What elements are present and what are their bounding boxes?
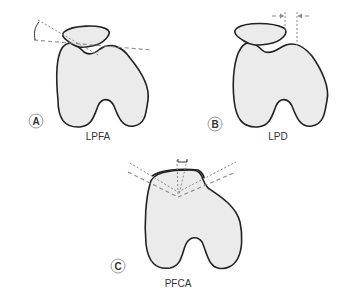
femur-outline-c	[145, 170, 242, 269]
diagram-canvas: A LPFA B LPD C PFCA	[0, 0, 337, 293]
panel-letter-b: B	[211, 119, 218, 130]
panel-letter-c: C	[114, 261, 121, 272]
panel-c: C PFCA	[111, 159, 242, 289]
arrowhead-right-b	[298, 14, 302, 19]
panel-b: B LPD	[208, 12, 328, 142]
patella-b	[235, 24, 286, 46]
panel-label-a: LPFA	[86, 131, 111, 142]
panel-label-b: LPD	[268, 131, 287, 142]
arrowhead-left-b	[280, 14, 284, 19]
panel-letter-a: A	[32, 116, 39, 127]
angle-arc-a	[34, 22, 39, 40]
panel-label-c: PFCA	[165, 278, 192, 289]
femur-outline-a	[57, 43, 148, 127]
panel-a: A LPFA	[29, 20, 152, 142]
angle-marker-c	[178, 159, 187, 162]
femur-outline-b	[233, 43, 327, 127]
